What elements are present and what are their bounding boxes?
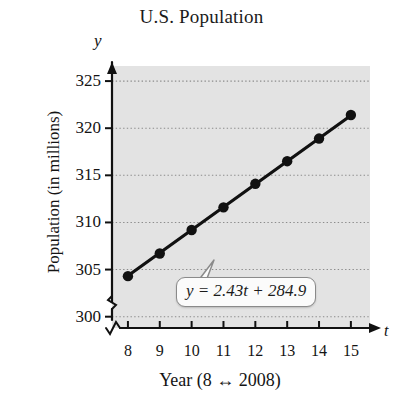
- equation-callout: y = 2.43t + 284.9: [176, 277, 316, 307]
- data-point: [346, 110, 356, 120]
- equation-text: y = 2.43t + 284.9: [186, 281, 306, 300]
- data-point: [218, 202, 228, 212]
- data-point: [123, 271, 133, 281]
- x-axis-arrowhead: [369, 323, 381, 333]
- data-point: [250, 179, 260, 189]
- plot-area: [0, 0, 403, 417]
- population-chart-figure: U.S. Population y t Population (in milli…: [0, 0, 403, 417]
- data-point: [186, 225, 196, 235]
- data-point: [282, 156, 292, 166]
- data-point: [155, 248, 165, 258]
- data-point: [314, 133, 324, 143]
